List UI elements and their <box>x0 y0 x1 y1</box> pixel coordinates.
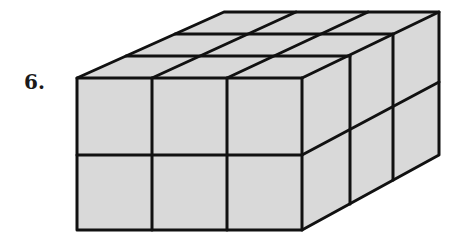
cube-prism-figure <box>0 0 467 245</box>
